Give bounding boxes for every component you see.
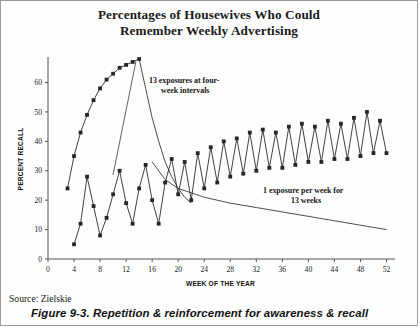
y-axis-title: PERCENT RECALL xyxy=(17,128,24,191)
data-point-marker xyxy=(280,166,284,170)
x-tick-label: 12 xyxy=(122,265,130,274)
data-point-marker xyxy=(131,222,135,226)
annotation-exposures-line-2: week intervals xyxy=(161,86,209,95)
x-tick-label: 40 xyxy=(305,265,313,274)
annotation-group: 13 exposures at four-week intervals1 exp… xyxy=(113,61,344,205)
x-tick-label: 52 xyxy=(383,265,391,274)
x-tick-label: 4 xyxy=(72,265,76,274)
data-point-marker xyxy=(131,60,135,64)
y-tick-label: 30 xyxy=(34,166,42,175)
data-point-marker xyxy=(261,128,265,132)
data-point-marker xyxy=(85,113,89,117)
y-tick-label: 40 xyxy=(34,137,42,146)
source-note: Source: Zielskie xyxy=(9,293,72,304)
annotation-weekly-line-1: 1 exposure per week for xyxy=(263,186,344,195)
data-point-marker xyxy=(118,169,122,173)
annotation-exposures-line-1: 13 exposures at four- xyxy=(149,76,220,85)
data-point-marker xyxy=(137,187,141,191)
x-tick-label: 32 xyxy=(253,265,261,274)
data-point-marker xyxy=(72,154,76,158)
data-point-marker xyxy=(157,222,161,226)
x-tick-label: 0 xyxy=(46,265,50,274)
data-point-marker xyxy=(118,66,122,70)
series-group xyxy=(66,57,389,246)
chart-title-line-2: Remember Weekly Advertising xyxy=(1,23,417,39)
data-point-marker xyxy=(352,116,356,120)
data-point-marker xyxy=(339,122,343,126)
data-point-marker xyxy=(163,181,167,185)
data-point-marker xyxy=(92,98,96,102)
data-point-marker xyxy=(85,175,89,179)
series-line xyxy=(68,59,140,188)
data-point-marker xyxy=(183,160,187,164)
data-point-marker xyxy=(72,242,76,246)
y-tick-label: 50 xyxy=(34,108,42,117)
data-point-marker xyxy=(170,157,174,161)
data-point-marker xyxy=(79,222,83,226)
chart-svg: 01020304050600481216202428323640444852WE… xyxy=(1,45,419,287)
y-tick-label: 10 xyxy=(34,225,42,234)
data-point-marker xyxy=(196,151,200,155)
data-point-marker xyxy=(98,87,102,91)
x-tick-label: 44 xyxy=(331,265,339,274)
data-point-marker xyxy=(333,157,337,161)
data-point-marker xyxy=(105,216,109,220)
data-point-marker xyxy=(254,169,258,173)
data-point-marker xyxy=(144,163,148,167)
x-tick-label: 20 xyxy=(174,265,182,274)
data-point-marker xyxy=(215,181,219,185)
data-point-marker xyxy=(372,151,376,155)
data-point-marker xyxy=(209,145,213,149)
annotation-weekly-line-2: 13 weeks xyxy=(291,196,321,205)
figure-caption: Figure 9-3. Repetition & reinforcement f… xyxy=(31,307,368,319)
data-point-marker xyxy=(66,187,70,191)
data-point-marker xyxy=(326,119,330,123)
x-tick-label: 8 xyxy=(98,265,102,274)
data-point-marker xyxy=(228,175,232,179)
data-point-marker xyxy=(287,125,291,129)
annotation-leader-line xyxy=(113,61,136,175)
x-tick-label: 24 xyxy=(200,265,208,274)
data-point-marker xyxy=(98,234,102,238)
data-point-marker xyxy=(365,110,369,114)
figure-container: Percentages of Housewives Who Could Reme… xyxy=(0,0,418,326)
data-point-marker xyxy=(79,131,83,135)
data-point-marker xyxy=(274,131,278,135)
x-tick-label: 36 xyxy=(279,265,287,274)
data-point-marker xyxy=(176,192,180,196)
data-point-marker xyxy=(189,198,193,202)
data-point-marker xyxy=(293,163,297,167)
data-point-marker xyxy=(92,204,96,208)
data-point-marker xyxy=(150,198,154,202)
series-line xyxy=(152,162,386,230)
data-point-marker xyxy=(267,166,271,170)
data-point-marker xyxy=(378,119,382,123)
data-point-marker xyxy=(385,151,389,155)
data-point-marker xyxy=(346,157,350,161)
data-point-marker xyxy=(222,139,226,143)
data-point-marker xyxy=(319,160,323,164)
y-tick-label: 0 xyxy=(38,255,42,264)
x-tick-label: 28 xyxy=(226,265,234,274)
x-tick-label: 16 xyxy=(148,265,156,274)
y-tick-label: 60 xyxy=(34,78,42,87)
data-point-marker xyxy=(202,187,206,191)
x-axis-title: WEEK OF THE YEAR xyxy=(186,280,255,287)
data-point-marker xyxy=(111,72,115,76)
data-point-marker xyxy=(105,78,109,82)
x-tick-label: 48 xyxy=(357,265,365,274)
data-point-marker xyxy=(306,160,310,164)
plot-area: 01020304050600481216202428323640444852WE… xyxy=(1,45,419,287)
data-point-marker xyxy=(124,201,128,205)
data-point-marker xyxy=(124,63,128,67)
data-point-marker xyxy=(241,172,245,176)
y-tick-label: 20 xyxy=(34,196,42,205)
chart-title-line-1: Percentages of Housewives Who Could xyxy=(1,7,417,23)
data-point-marker xyxy=(300,122,304,126)
data-point-marker xyxy=(313,125,317,129)
data-point-marker xyxy=(359,154,363,158)
data-point-marker xyxy=(235,137,239,141)
data-point-marker xyxy=(248,131,252,135)
chart-title: Percentages of Housewives Who Could Reme… xyxy=(1,7,417,39)
data-point-marker xyxy=(111,192,115,196)
